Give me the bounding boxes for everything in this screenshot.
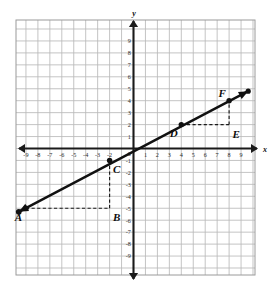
coordinate-plane-figure: -9-8-7-6-5-4-3-2123456789987654321-1-2-3…	[0, 0, 278, 289]
y-tick-label-6: 6	[128, 73, 131, 80]
x-tick-label-neg2: -2	[107, 151, 112, 158]
x-axis-name: x	[262, 145, 267, 154]
y-tick-label-neg6: -6	[126, 217, 131, 224]
y-tick-label-neg4: -4	[126, 193, 131, 200]
x-tick-label-neg3: -3	[95, 151, 100, 158]
y-tick-label-9: 9	[128, 37, 131, 44]
line-endpoint-dot-right	[246, 89, 251, 94]
y-tick-label-3: 3	[128, 109, 131, 116]
y-tick-label-2: 2	[128, 121, 131, 128]
y-tick-label-4: 4	[128, 97, 131, 104]
point-label-D: D	[169, 127, 178, 139]
x-tick-label-neg9: -9	[23, 151, 28, 158]
y-tick-label-7: 7	[128, 61, 131, 68]
y-tick-label-neg9: -9	[126, 252, 131, 259]
x-tick-label-6: 6	[204, 151, 207, 158]
y-tick-label-neg5: -5	[126, 205, 131, 212]
y-axis-name: y	[131, 9, 136, 18]
x-tick-label-8: 8	[228, 151, 231, 158]
x-tick-label-7: 7	[216, 151, 219, 158]
x-tick-label-3: 3	[168, 151, 171, 158]
x-tick-label-neg5: -5	[71, 151, 76, 158]
graph-canvas: -9-8-7-6-5-4-3-2123456789987654321-1-2-3…	[0, 0, 278, 289]
y-tick-label-neg1: -1	[126, 157, 131, 164]
y-tick-label-neg2: -2	[126, 169, 131, 176]
y-tick-label-neg3: -3	[126, 181, 131, 188]
x-tick-label-neg4: -4	[83, 151, 88, 158]
point-label-A: A	[14, 211, 22, 223]
x-tick-label-4: 4	[180, 151, 183, 158]
point-label-E: E	[231, 128, 239, 140]
point-marker-A	[23, 206, 28, 211]
y-tick-label-neg7: -7	[126, 228, 131, 235]
x-tick-label-1: 1	[144, 151, 147, 158]
x-tick-label-neg6: -6	[59, 151, 64, 158]
x-tick-label-9: 9	[240, 151, 243, 158]
x-tick-label-2: 2	[156, 151, 159, 158]
y-tick-label-1: 1	[128, 133, 131, 140]
point-label-F: F	[217, 87, 226, 99]
point-label-B: B	[112, 211, 120, 223]
point-marker-F	[226, 98, 231, 103]
point-marker-D	[179, 122, 184, 127]
point-marker-C	[107, 158, 112, 163]
point-label-C: C	[113, 163, 121, 175]
y-tick-label-5: 5	[128, 85, 131, 92]
x-tick-label-neg7: -7	[47, 151, 52, 158]
y-tick-label-8: 8	[128, 49, 131, 56]
figure-background	[0, 0, 278, 289]
x-tick-label-5: 5	[192, 151, 195, 158]
x-tick-label-neg8: -8	[35, 151, 40, 158]
y-tick-label-neg8: -8	[126, 240, 131, 247]
